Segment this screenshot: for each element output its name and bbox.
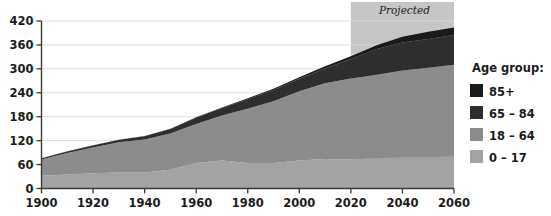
- y-tick-label: 360: [9, 38, 33, 52]
- x-tick-label: 1900: [25, 196, 57, 210]
- y-tick-label: 0: [25, 182, 33, 196]
- y-tick-label: 60: [17, 158, 33, 172]
- y-tick-label: 300: [9, 62, 33, 76]
- legend-label: 18 – 64: [489, 129, 535, 143]
- x-tick-label: 1920: [77, 196, 109, 210]
- legend-label: 65 – 84: [489, 107, 535, 121]
- legend-swatch: [470, 150, 483, 163]
- legend-swatch: [470, 84, 483, 97]
- projected-label: Projected: [378, 4, 430, 16]
- legend-label: 0 – 17: [489, 151, 527, 165]
- y-tick-label: 240: [9, 86, 33, 100]
- y-tick-label: 120: [9, 134, 33, 148]
- x-tick-label: 2020: [335, 196, 367, 210]
- x-tick-label: 2060: [438, 196, 470, 210]
- x-tick-label: 1960: [180, 196, 212, 210]
- x-tick-label: 2040: [386, 196, 418, 210]
- chart-canvas: 060120180240300360420 190019201940196019…: [0, 0, 551, 216]
- y-tick-label: 180: [9, 110, 33, 124]
- x-tick-label: 1940: [129, 196, 161, 210]
- legend-title: Age group:: [472, 61, 544, 75]
- x-axis-tick-labels: 190019201940196019802000202020402060: [25, 196, 470, 210]
- legend-label: 85+: [489, 85, 515, 99]
- x-tick-label: 2000: [283, 196, 315, 210]
- legend-swatch: [470, 128, 483, 141]
- legend-swatch: [470, 106, 483, 119]
- y-tick-label: 420: [9, 14, 33, 28]
- x-tick-label: 1980: [232, 196, 264, 210]
- stacked-area-chart: 060120180240300360420 190019201940196019…: [0, 0, 551, 216]
